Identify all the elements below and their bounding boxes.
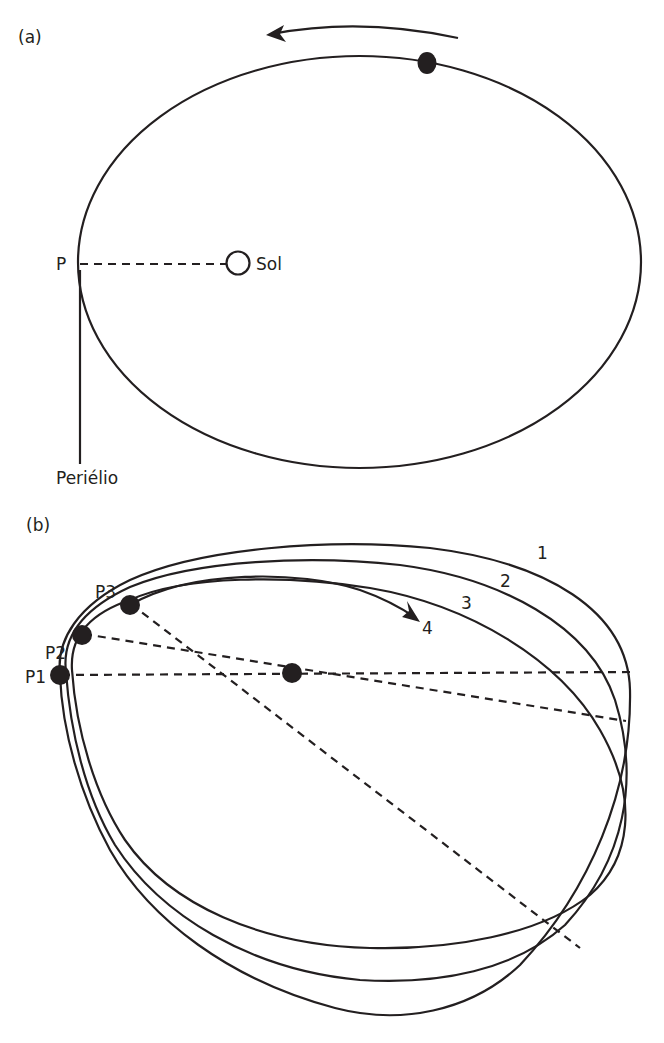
apsidal-line-3 [131, 604, 580, 948]
apsidal-line-1 [62, 672, 630, 675]
panel-a: (a) Sol P Periélio [18, 25, 641, 488]
sun-icon [227, 252, 250, 275]
motion-arrow-icon [272, 26, 458, 38]
p3-label: P3 [95, 582, 116, 602]
p2-label: P2 [45, 643, 66, 663]
panel-a-label: (a) [18, 27, 42, 47]
panel-b-label: (b) [26, 515, 50, 535]
perihelion-p1-dot [50, 665, 70, 685]
panel-b: (b) P1 P2 P3 1 2 3 4 [25, 515, 630, 1015]
sun-label: Sol [256, 254, 282, 274]
orbit-2-label: 2 [500, 571, 511, 591]
orbit-1-label: 1 [537, 543, 548, 563]
elliptical-orbit [78, 56, 641, 468]
apsidal-line-2 [84, 634, 626, 721]
perihelion-point-label: P [56, 254, 66, 274]
orbit-2 [65, 560, 626, 981]
planet-icon [418, 52, 437, 74]
figure-canvas: (a) Sol P Periélio (b) [0, 0, 664, 1043]
orbit-3-label: 3 [461, 593, 472, 613]
perihelion-label: Periélio [56, 468, 118, 488]
p1-label: P1 [25, 667, 46, 687]
perihelion-p2-dot [72, 625, 92, 645]
orbit-4-arc [130, 576, 416, 618]
sun-focus-icon [282, 663, 302, 683]
orbit-4-label: 4 [422, 618, 433, 638]
arrowhead-icon [266, 25, 286, 42]
perihelion-p3-dot [120, 595, 140, 615]
